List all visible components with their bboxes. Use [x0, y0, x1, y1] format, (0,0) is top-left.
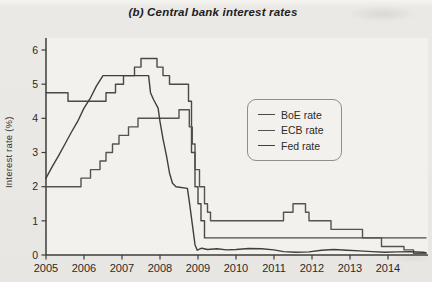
- x-tick-label: 2008: [148, 262, 172, 274]
- legend-item-label: BoE rate: [281, 109, 322, 121]
- x-tick-label: 2009: [186, 262, 210, 274]
- legend-item: ECB rate: [258, 123, 333, 139]
- x-tick-label: 2012: [300, 262, 324, 274]
- x-tick-label: 2011: [262, 262, 286, 274]
- x-tick-label: 2010: [224, 262, 248, 274]
- legend-item: Fed rate: [258, 138, 333, 154]
- chart-plot: 0123456200520062007200820092010201120122…: [0, 0, 432, 282]
- figure-panel: (b) Central bank interest rates Interest…: [0, 0, 432, 282]
- x-tick-label: 2005: [34, 262, 58, 274]
- x-tick-label: 2013: [338, 262, 362, 274]
- x-tick-label: 2014: [376, 262, 400, 274]
- x-tick-label: 2006: [72, 262, 96, 274]
- y-tick-label: 2: [32, 180, 38, 192]
- legend-item: BoE rate: [258, 107, 333, 123]
- y-tick-label: 1: [32, 215, 38, 227]
- legend-line-sample: [258, 130, 275, 131]
- legend-line-sample: [258, 145, 275, 146]
- y-tick-label: 5: [32, 78, 38, 90]
- legend: BoE rate ECB rate Fed rate: [247, 99, 342, 161]
- x-tick-label: 2007: [110, 262, 134, 274]
- y-tick-label: 4: [32, 112, 38, 124]
- legend-item-label: ECB rate: [281, 124, 324, 136]
- legend-line-sample: [258, 114, 275, 115]
- y-tick-label: 3: [32, 146, 38, 158]
- y-tick-label: 0: [32, 249, 38, 261]
- y-tick-label: 6: [32, 44, 38, 56]
- legend-item-label: Fed rate: [281, 140, 320, 152]
- plot-area: [46, 38, 428, 255]
